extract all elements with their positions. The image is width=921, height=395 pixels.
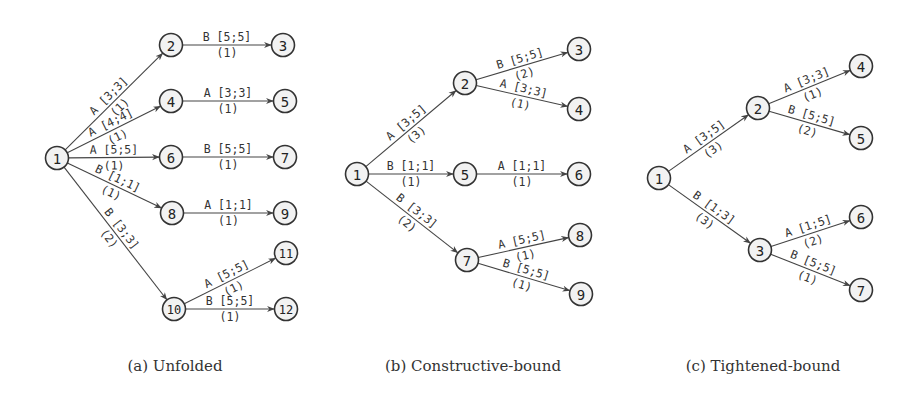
node-label: 6 [575,167,583,183]
diagram-tightened-bound: A [3;5](3)A [3;3](1)B [5;5](2)B [1;3](3)… [648,55,873,302]
edge-arrow [668,115,748,171]
node-2: 2 [747,97,770,120]
edge-1-5: B [1;1](1) [369,159,454,189]
edge-action-label: A [1;1] [498,159,546,173]
node-1: 1 [648,167,671,190]
edge-1-8: B [1;1](1) [67,162,161,210]
edge-3-6: A [1;5](2) [771,212,850,256]
node-4: 4 [568,98,591,121]
edge-count-label: (1) [217,46,238,60]
node-label: 8 [576,228,584,244]
node-5: 5 [454,163,477,186]
edge-5-6: A [1;1](1) [477,159,568,189]
edge-action-label: A [5;5] [90,142,139,156]
node-5: 5 [850,127,873,150]
node-8: 8 [161,202,184,225]
node-label: 7 [463,253,471,269]
edge-7-9: B [5;5](1) [478,256,569,299]
node-label: 7 [281,150,289,166]
node-label: 5 [461,167,469,183]
edge-count-label: (1) [218,214,239,228]
node-7: 7 [850,279,873,302]
edge-2-4: A [3;3](1) [769,64,850,110]
edge-4-5: A [3;3](1) [183,86,274,116]
edge-2-4: A [3;3](1) [476,76,567,116]
edge-1-2: A [3;5](3) [366,91,456,167]
edge-count-label: (1) [510,275,534,294]
edge-count-label: (1) [218,158,239,172]
node-label: 2 [754,101,762,117]
node-2: 2 [454,72,477,95]
edge-count-label: (1) [401,175,422,189]
edge-2-5: B [5;5](2) [769,102,849,144]
edge-action-label: A [3;3] [204,86,252,100]
edge-action-label: B [5;5] [203,30,251,44]
node-3: 3 [568,38,591,61]
node-6: 6 [850,206,873,229]
node-3: 3 [272,34,295,57]
node-3: 3 [749,239,772,262]
edge-arrow [668,185,750,243]
caption-unfolded: (a) Unfolded [127,357,222,375]
node-label: 11 [279,247,293,261]
node-label: 10 [167,303,181,317]
node-1: 1 [346,163,369,186]
node-4: 4 [160,90,183,113]
node-label: 4 [167,94,175,110]
node-label: 2 [461,76,469,92]
edge-count-label: (1) [512,175,533,189]
node-label: 2 [167,38,175,54]
node-label: 8 [168,206,176,222]
node-label: 1 [53,151,61,167]
node-label: 3 [279,38,287,54]
edge-1-2: A [3;5](3) [668,115,748,171]
edge-count-label: (1) [220,310,241,324]
edge-action-label: A [1;1] [204,198,252,212]
edge-6-7: B [5;5](1) [183,142,274,172]
edge-3-7: B [5;5](1) [771,247,850,293]
edge-arrow [366,91,456,167]
edge-8-9: A [1;1](1) [184,198,274,228]
node-label: 4 [857,59,865,75]
node-4: 4 [850,55,873,78]
node-8: 8 [569,224,592,247]
node-7: 7 [274,146,297,169]
node-9: 9 [274,202,297,225]
node-label: 1 [353,167,361,183]
edge-10-12: B [5;5](1) [186,294,275,324]
node-label: 3 [756,243,764,259]
node-label: 9 [577,287,585,303]
node-10: 10 [163,298,186,321]
node-label: 4 [575,102,583,118]
node-label: 5 [281,94,289,110]
node-label: 9 [281,206,289,222]
node-label: 3 [575,42,583,58]
edge-1-3: B [1;3](3) [668,185,750,243]
diagram-unfolded: A [3;3](1)B [5;5](1)A [4;4](1)A [3;3](1)… [46,30,298,324]
node-1: 1 [46,147,69,170]
edge-action-label: B [5;5] [204,142,252,156]
diagram-constructive-bound: A [3;5](3)B [5;5](2)A [3;3](1)B [1;1](1)… [346,38,593,306]
node-12: 12 [275,298,298,321]
node-9: 9 [570,283,593,306]
node-label: 12 [279,303,293,317]
node-2: 2 [160,34,183,57]
edge-count-label: (1) [218,102,239,116]
node-label: 6 [857,210,865,226]
edge-2-3: B [5;5](1) [183,30,272,60]
caption-tightened-bound: (c) Tightened-bound [686,357,841,375]
edge-count-label: (2) [795,121,819,140]
edge-action-label: B [1;1] [387,159,435,173]
node-label: 6 [167,150,175,166]
node-6: 6 [160,146,183,169]
node-label: 1 [655,171,663,187]
edge-action-label: B [5;5] [206,294,254,308]
caption-constructive-bound: (b) Constructive-bound [385,357,561,375]
node-5: 5 [274,90,297,113]
node-6: 6 [568,163,591,186]
node-7: 7 [456,249,479,272]
edge-arrow [366,181,457,253]
edge-1-7: B [3;3](2) [366,181,457,253]
node-label: 7 [857,283,865,299]
diagram-canvas: A [3;3](1)B [5;5](1)A [4;4](1)A [3;3](1)… [0,0,921,395]
